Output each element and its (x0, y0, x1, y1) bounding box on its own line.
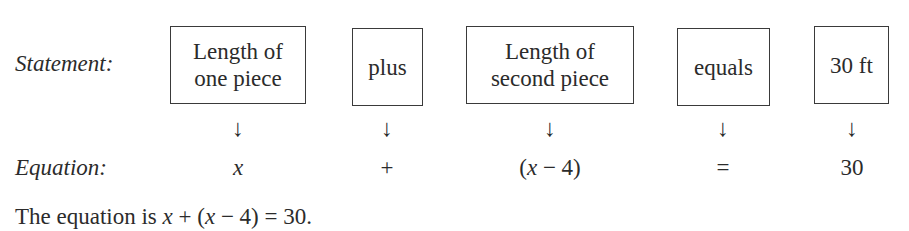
box-text-line: second piece (491, 65, 609, 92)
box-text-line: Length of (193, 38, 283, 65)
paren-open: ( (519, 155, 527, 180)
equation-term-equals: = (717, 156, 730, 179)
down-arrow-icon: ↓ (223, 116, 253, 140)
equation-label: Equation: (15, 156, 107, 179)
statement-box-equals: equals (677, 28, 770, 106)
down-arrow-icon: ↓ (837, 116, 867, 140)
box-text-line: 30 ft (830, 52, 873, 79)
conclusion-mid: + ( (173, 204, 205, 229)
variable-x: x (527, 155, 537, 180)
box-text-line: equals (694, 54, 753, 81)
statement-box-length-one-piece: Length of one piece (170, 26, 306, 104)
conclusion-end: − 4) = 30. (215, 204, 312, 229)
box-text-line: one piece (193, 65, 283, 92)
equation-term-x-minus-4: (x − 4) (519, 156, 581, 179)
down-arrow-icon: ↓ (372, 116, 402, 140)
statement-box-30-ft: 30 ft (814, 26, 889, 104)
statement-box-length-second-piece: Length of second piece (466, 26, 634, 104)
box-text-line: plus (368, 54, 406, 81)
conclusion-prefix: The equation is (15, 204, 163, 229)
minus-four: − 4) (537, 155, 581, 180)
statement-label: Statement: (15, 52, 113, 75)
variable-x: x (163, 204, 173, 229)
variable-x: x (205, 204, 215, 229)
equation-term-plus: + (381, 156, 394, 179)
equation-term-x: x (233, 156, 243, 179)
statement-box-plus: plus (352, 28, 423, 106)
down-arrow-icon: ↓ (535, 116, 565, 140)
equation-term-30: 30 (841, 156, 864, 179)
box-text-line: Length of (491, 38, 609, 65)
conclusion-sentence: The equation is x + (x − 4) = 30. (15, 205, 312, 228)
down-arrow-icon: ↓ (708, 116, 738, 140)
